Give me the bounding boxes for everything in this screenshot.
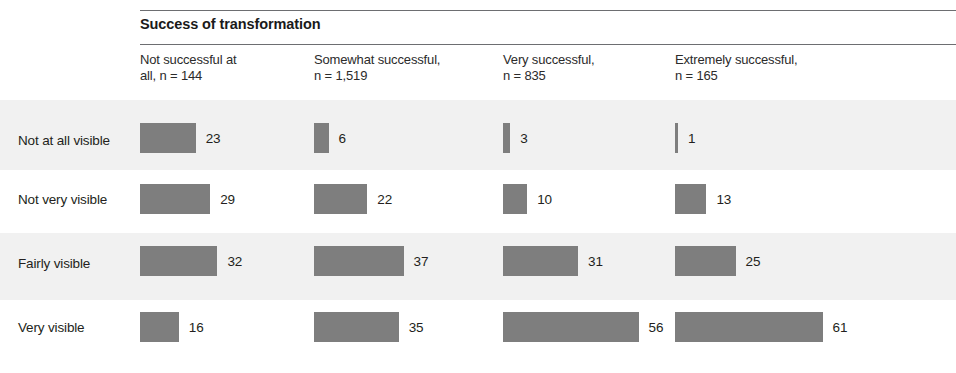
bar-value-label: 16 <box>189 320 204 335</box>
bar <box>675 123 678 153</box>
group-title: Success of transformation <box>140 16 320 32</box>
bar-value-label: 13 <box>716 192 731 207</box>
bar-value-label: 35 <box>409 320 424 335</box>
bar-value-label: 31 <box>588 254 603 269</box>
bar-value-label: 61 <box>833 320 848 335</box>
row-label: Not very visible <box>18 192 107 207</box>
bar <box>140 184 210 214</box>
bar <box>503 312 639 342</box>
bar-value-label: 3 <box>520 131 527 146</box>
bar <box>675 184 706 214</box>
bar-value-label: 25 <box>746 254 761 269</box>
bar-value-label: 6 <box>339 131 346 146</box>
row-label: Not at all visible <box>18 133 110 148</box>
bar <box>140 123 196 153</box>
bar <box>503 246 578 276</box>
row-label: Fairly visible <box>18 256 90 271</box>
bar <box>140 312 179 342</box>
header-rule-middle <box>140 44 956 45</box>
column-header: Not successful at all, n = 144 <box>140 52 236 84</box>
bar <box>503 184 527 214</box>
bar <box>314 123 329 153</box>
column-header: Somewhat successful, n = 1,519 <box>314 52 440 84</box>
column-header: Extremely successful, n = 165 <box>675 52 798 84</box>
bar <box>314 246 404 276</box>
header-rule-top <box>140 10 956 11</box>
bar-value-label: 22 <box>377 192 392 207</box>
bar-value-label: 29 <box>220 192 235 207</box>
bar <box>675 312 823 342</box>
bar <box>503 123 510 153</box>
chart-header: Success of transformation Not successful… <box>140 0 956 100</box>
bar-chart: Success of transformation Not successful… <box>0 0 956 373</box>
bar <box>314 312 399 342</box>
bar-value-label: 23 <box>206 131 221 146</box>
bar-value-label: 32 <box>227 254 242 269</box>
column-header: Very successful, n = 835 <box>503 52 595 84</box>
bar-value-label: 10 <box>537 192 552 207</box>
bar-value-label: 37 <box>414 254 429 269</box>
row-label: Very visible <box>18 320 84 335</box>
bar <box>140 246 217 276</box>
bar-value-label: 1 <box>688 131 695 146</box>
bar <box>314 184 367 214</box>
bar-value-label: 56 <box>649 320 664 335</box>
bar <box>675 246 736 276</box>
